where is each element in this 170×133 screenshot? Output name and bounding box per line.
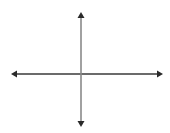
- right-arrowhead-icon: [157, 71, 163, 78]
- coordinate-axes: [0, 0, 170, 133]
- left-arrowhead-icon: [11, 71, 17, 78]
- up-arrowhead-icon: [78, 12, 85, 18]
- down-arrowhead-icon: [78, 121, 85, 127]
